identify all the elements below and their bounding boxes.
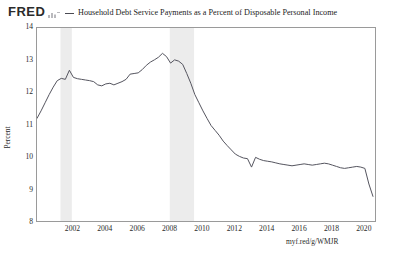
x-axis-tick-label: 2018: [324, 224, 339, 233]
source-url: myf.red/g/WMJR: [286, 237, 338, 246]
x-axis-tick-label: 2006: [130, 224, 145, 233]
x-axis-tick-label: 2004: [97, 224, 112, 233]
y-axis-tick-label: 9: [3, 186, 33, 194]
x-axis-tick-label: 2008: [162, 224, 177, 233]
y-axis-tick-label: 11: [3, 121, 33, 129]
x-axis-tick-label: 2002: [65, 224, 80, 233]
recession-band: [170, 28, 194, 222]
chart-header: FRED Household Debt Service Payments as …: [0, 0, 396, 24]
x-axis-tick-label: 2014: [259, 224, 274, 233]
y-axis-tick-label: 13: [3, 56, 33, 64]
x-axis-tick-label: 2016: [292, 224, 307, 233]
data-series-line: [37, 53, 373, 196]
fred-logo: FRED: [8, 5, 45, 18]
y-axis-tick-label: 14: [3, 23, 33, 31]
y-axis-tick-label: 12: [3, 88, 33, 96]
chart-legend: Household Debt Service Payments as a Per…: [65, 7, 337, 19]
legend-series-label: Household Debt Service Payments as a Per…: [78, 8, 337, 18]
legend-line-swatch: [65, 13, 74, 14]
fred-chart: FRED Household Debt Service Payments as …: [0, 0, 396, 264]
mini-bar-chart-icon: [48, 10, 60, 18]
plot-area: [36, 27, 376, 222]
series-plot: [37, 28, 376, 222]
x-axis-tick-label: 2010: [194, 224, 209, 233]
x-axis-tick-label: 2012: [227, 224, 242, 233]
x-axis: 2002200420062008201020122014201620182020: [36, 224, 376, 236]
y-axis-tick-label: 10: [3, 153, 33, 161]
x-axis-tick-label: 2020: [356, 224, 371, 233]
y-axis: Percent 891011121314: [0, 27, 33, 222]
y-axis-tick-label: 8: [3, 218, 33, 226]
recession-band: [60, 28, 71, 222]
